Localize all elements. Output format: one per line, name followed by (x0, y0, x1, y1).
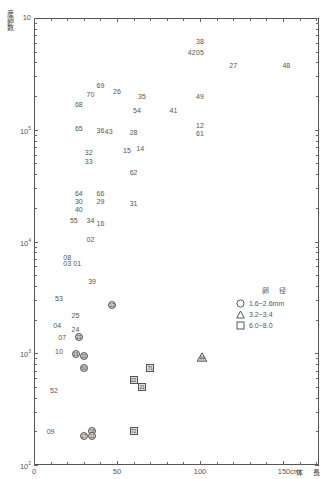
x-tick (283, 461, 284, 465)
y-tick (34, 371, 37, 372)
x-tick (233, 18, 234, 21)
y-tick (34, 155, 37, 156)
triangle-marker-icon (236, 310, 245, 319)
circle-marker-point: 60 (80, 364, 88, 372)
y-tick (34, 247, 37, 248)
circle-marker-point: 11 (88, 432, 96, 440)
circle-marker-point: 17 (80, 432, 88, 440)
data-point-label: 48 (282, 61, 290, 68)
square-marker-point: 21 (138, 383, 146, 391)
y-tick (34, 387, 37, 388)
x-tick (84, 18, 85, 21)
data-point-label: 31 (130, 200, 138, 207)
data-point-label: 29 (96, 198, 104, 205)
y-tick (316, 52, 319, 53)
data-point-label: 62 (130, 168, 138, 175)
x-tick (150, 18, 151, 21)
data-point-label: 36 (96, 126, 104, 133)
y-tick (34, 275, 37, 276)
data-point-label: 16 (96, 220, 104, 227)
y-tick (316, 163, 319, 164)
data-point-label: 38 (196, 38, 204, 45)
legend: 卵 径 1.6~2.6mm 3.2~3.4 6.0~8.0 (236, 285, 316, 331)
y-tick (316, 286, 319, 287)
x-tick (300, 462, 301, 465)
y-tick (316, 364, 319, 365)
x-tick (250, 18, 251, 21)
data-point-label: 49 (196, 93, 204, 100)
y-tick (34, 29, 37, 30)
data-point-label: 34 (87, 217, 95, 224)
legend-item-triangle: 3.2~3.4 (236, 309, 316, 320)
y-tick (316, 247, 319, 248)
y-tick (316, 62, 319, 63)
x-tick (233, 462, 234, 465)
data-point-label: 43 (105, 128, 113, 135)
x-tick (300, 18, 301, 21)
x-tick (183, 18, 184, 21)
y-tick (34, 135, 37, 136)
data-point-label: 27 (229, 61, 237, 68)
y-tick (316, 412, 319, 413)
plot-frame (34, 18, 319, 465)
x-tick (117, 18, 118, 22)
x-tick (150, 462, 151, 465)
legend-label: 1.6~2.6mm (249, 300, 284, 307)
data-point-label: 55 (70, 217, 78, 224)
y-tick (34, 208, 37, 209)
data-point-label: 07 (58, 333, 66, 340)
y-tick-label: 104 (11, 237, 31, 248)
data-point-label: 15 (123, 146, 131, 153)
data-point-label: 25 (72, 311, 80, 318)
y-tick (34, 431, 37, 432)
y-tick (34, 130, 38, 131)
x-tick (283, 18, 284, 22)
x-tick (67, 462, 68, 465)
y-tick (316, 135, 319, 136)
square-marker-point: 71 (146, 364, 154, 372)
y-tick (34, 465, 38, 466)
y-tick (34, 378, 37, 379)
x-tick (51, 462, 52, 465)
y-tick (316, 371, 319, 372)
x-tick (51, 18, 52, 21)
y-tick (34, 300, 37, 301)
y-tick (316, 358, 319, 359)
y-tick (34, 141, 37, 142)
y-tick (316, 43, 319, 44)
y-tick (315, 130, 319, 131)
x-tick-label: 150cm (278, 467, 301, 476)
y-tick (34, 242, 38, 243)
circle-marker-point: 19 (72, 350, 80, 358)
x-tick (200, 461, 201, 465)
y-tick (316, 431, 319, 432)
data-point-label: 33 (85, 157, 93, 164)
x-tick (266, 18, 267, 21)
y-tick-label: 105 (11, 125, 31, 136)
y-tick (34, 43, 37, 44)
legend-label: 6.0~8.0 (249, 322, 273, 329)
y-tick-label: 102 (11, 460, 31, 471)
data-point-label: 09 (47, 428, 55, 435)
y-tick (315, 353, 319, 354)
x-tick (167, 462, 168, 465)
x-tick (100, 18, 101, 21)
y-tick (316, 29, 319, 30)
x-tick (266, 462, 267, 465)
x-tick (167, 18, 168, 21)
data-point-label: 05 (196, 48, 204, 55)
data-point-label: 30 (75, 198, 83, 205)
y-tick (316, 174, 319, 175)
y-tick (34, 23, 37, 24)
data-point-label: 66 (96, 190, 104, 197)
scatter-plot: 産卵数 体 長 050100150cm10105104103102 384205… (0, 0, 334, 479)
y-tick (34, 147, 37, 148)
x-tick (67, 18, 68, 21)
y-tick (34, 364, 37, 365)
y-tick (34, 188, 37, 189)
data-point-label: 04 (53, 321, 61, 328)
circle-marker-point: 13 (108, 301, 116, 309)
y-tick-label: 103 (11, 348, 31, 359)
y-tick (34, 266, 37, 267)
x-tick-label: 0 (32, 467, 36, 476)
